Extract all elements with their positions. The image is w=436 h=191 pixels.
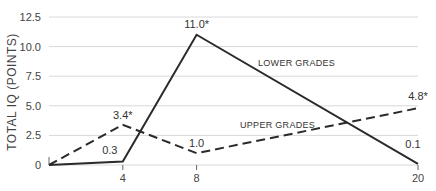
- chart: 02.55.07.510.012.5 4820 TOTAL IQ (POINTS…: [0, 0, 436, 191]
- series-label-lower-grades: LOWER GRADES: [258, 58, 335, 68]
- y-tick-label: 12.5: [20, 11, 41, 23]
- series-label-upper-grades: UPPER GRADES: [240, 120, 315, 130]
- y-axis-ticks: 02.55.07.510.012.5: [20, 11, 49, 171]
- y-tick-label: 10.0: [20, 41, 41, 53]
- x-axis-ticks: 4820: [120, 165, 424, 184]
- y-tick-label: 5.0: [26, 100, 41, 112]
- upper-grades-line: [49, 108, 418, 165]
- data-label: 0.1: [405, 138, 420, 150]
- data-label: 0.3: [102, 144, 117, 156]
- y-tick-label: 0: [35, 159, 41, 171]
- x-tick-label: 4: [120, 172, 126, 184]
- y-axis-label: TOTAL IQ (POINTS): [5, 33, 19, 151]
- data-label: 4.8*: [408, 90, 428, 102]
- y-tick-label: 7.5: [26, 70, 41, 82]
- y-tick-label: 2.5: [26, 129, 41, 141]
- data-label: 3.4*: [113, 109, 133, 121]
- gridlines: [49, 17, 418, 165]
- data-label: 1.0: [189, 137, 204, 149]
- data-label: 11.0*: [184, 18, 210, 30]
- x-tick-label: 20: [412, 172, 424, 184]
- x-tick-label: 8: [194, 172, 200, 184]
